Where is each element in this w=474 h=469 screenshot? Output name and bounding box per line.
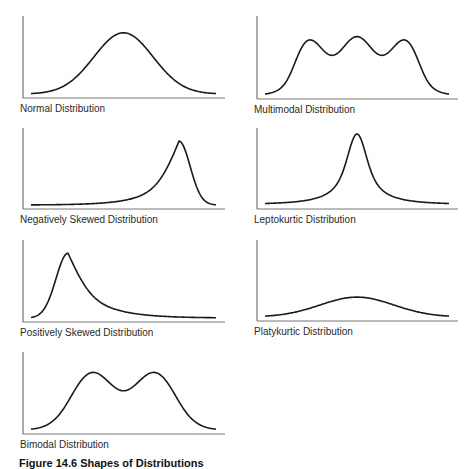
panel-title: Platykurtic Distribution	[254, 326, 353, 337]
panel-platykurtic	[257, 240, 458, 321]
panel-title: Leptokurtic Distribution	[254, 214, 356, 225]
distribution-curve	[31, 372, 216, 429]
panel-multimodal	[257, 16, 458, 99]
panel-negatively-skewed	[23, 128, 225, 209]
panel-title: Multimodal Distribution	[254, 104, 355, 115]
distribution-curve	[265, 37, 449, 94]
panel-normal	[23, 16, 225, 98]
distribution-curve	[31, 253, 216, 318]
panel-title: Positively Skewed Distribution	[20, 327, 153, 338]
panel-title: Normal Distribution	[20, 103, 105, 114]
panel-positively-skewed	[23, 240, 225, 322]
figure-caption: Figure 14.6 Shapes of Distributions	[19, 457, 204, 469]
distribution-curve	[31, 33, 216, 94]
distribution-curve	[265, 297, 449, 316]
panel-leptokurtic	[257, 128, 458, 209]
panel-title: Negatively Skewed Distribution	[20, 214, 158, 225]
panel-bimodal	[23, 352, 225, 434]
panel-title: Bimodal Distribution	[20, 439, 109, 450]
distribution-curve	[265, 134, 449, 204]
distribution-curve	[31, 141, 216, 205]
